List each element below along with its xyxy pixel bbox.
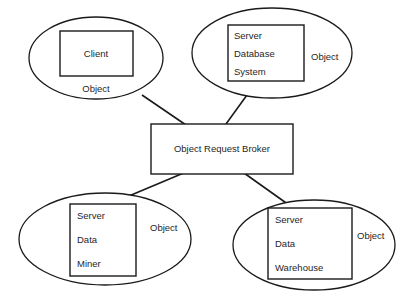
database-system-inner-label-0: Server [234, 30, 262, 41]
broker-label: Object Request Broker [174, 143, 270, 154]
connector-database-system-to-broker [226, 95, 247, 124]
data-miner-inner-label-0: Server [77, 210, 105, 221]
node-server-database-system[interactable]: Server Database System Object [192, 8, 352, 98]
node-server-data-warehouse[interactable]: Server Data Warehouse Object [233, 200, 395, 290]
database-system-inner-label-1: Database [234, 48, 275, 59]
orb-architecture-diagram: Client Object Server Database System Obj… [0, 0, 412, 307]
data-warehouse-object-label: Object [357, 230, 385, 241]
client-object-label: Object [82, 83, 110, 94]
data-miner-inner-label-1: Data [77, 234, 98, 245]
connector-broker-to-data-warehouse [244, 173, 289, 205]
database-system-object-label: Object [311, 51, 339, 62]
data-miner-object-label: Object [150, 222, 178, 233]
client-inner-label-0: Client [84, 48, 109, 59]
data-warehouse-inner-label-2: Warehouse [275, 262, 323, 273]
database-system-inner-label-2: System [234, 66, 266, 77]
node-client[interactable]: Client Object [29, 17, 163, 99]
data-miner-inner-label-2: Miner [77, 258, 101, 269]
data-warehouse-inner-label-1: Data [275, 238, 296, 249]
node-server-data-miner[interactable]: Server Data Miner Object [19, 193, 191, 285]
connector-client-to-broker [142, 95, 186, 125]
diagram-canvas: Client Object Server Database System Obj… [0, 0, 412, 307]
data-warehouse-inner-label-0: Server [275, 214, 303, 225]
node-object-request-broker[interactable]: Object Request Broker [151, 124, 293, 174]
